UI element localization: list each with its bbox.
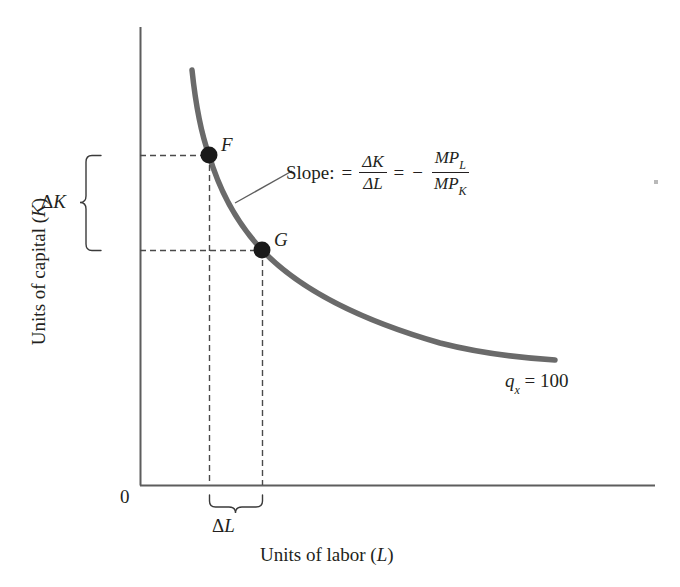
x-axis-title-text: Units of labor	[260, 544, 366, 565]
slope-minus-sign: −	[411, 163, 424, 182]
delta-l-variable: L	[224, 515, 235, 536]
isoquant-figure: Units of capital (K) Units of labor (L) …	[0, 0, 680, 587]
slope-fraction-delta-numerator: ΔK	[359, 152, 386, 173]
delta-k-brace	[80, 156, 101, 251]
delta-symbol: Δ	[41, 191, 53, 212]
mp-numerator-base: MP	[435, 148, 460, 167]
plot-canvas	[0, 0, 680, 587]
delta-l-brace	[210, 495, 263, 513]
point-g-marker	[254, 242, 271, 259]
isoquant-curve-label: qx = 100	[505, 371, 569, 394]
isoquant-subscript: x	[515, 383, 520, 397]
scan-artifact-speck	[654, 180, 658, 184]
delta-k-label: ΔK	[41, 192, 66, 211]
x-axis-title: Units of labor (L)	[260, 545, 394, 564]
delta-l-label: ΔL	[212, 516, 235, 535]
slope-label: Slope:	[286, 163, 335, 182]
slope-fraction-delta-denominator: ΔL	[360, 173, 385, 193]
slope-fraction-delta: ΔK ΔL	[359, 152, 386, 193]
x-axis-title-variable: L	[377, 544, 388, 565]
slope-fraction-mp: MPL MPK	[431, 148, 470, 197]
isoquant-value: = 100	[525, 370, 569, 391]
slope-fraction-mp-denominator: MPK	[431, 173, 470, 197]
isoquant-curve	[192, 70, 555, 360]
isoquant-variable: q	[505, 370, 515, 391]
slope-equals-2: =	[394, 163, 405, 182]
slope-formula: Slope: = ΔK ΔL = − MPL MPK	[286, 148, 470, 197]
point-f-marker	[201, 147, 218, 164]
slope-equals-1: =	[342, 163, 353, 182]
slope-leader-line	[235, 171, 292, 203]
mp-denominator-subscript: K	[459, 184, 467, 198]
point-g-label: G	[274, 230, 288, 249]
slope-fraction-mp-numerator: MPL	[432, 148, 469, 173]
delta-k-variable: K	[53, 191, 66, 212]
y-axis-title-text: Units of capital	[28, 228, 49, 345]
mp-numerator-subscript: L	[459, 158, 466, 172]
origin-label: 0	[120, 487, 130, 506]
point-f-label: F	[221, 135, 233, 154]
mp-denominator-base: MP	[434, 174, 459, 193]
delta-symbol: Δ	[212, 515, 224, 536]
